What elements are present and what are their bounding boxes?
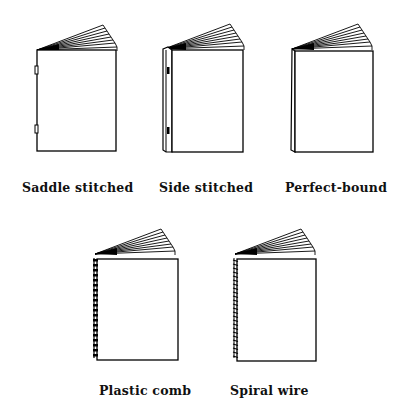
label-saddle-stitched: Saddle stitched xyxy=(22,180,133,195)
binding-diagram xyxy=(0,0,400,416)
label-spiral-wire: Spiral wire xyxy=(230,383,309,398)
saddle-stitched-book-icon xyxy=(35,25,117,151)
label-plastic-comb: Plastic comb xyxy=(99,383,191,398)
plastic-comb-book-icon xyxy=(93,229,178,360)
perfect-bound-book-icon xyxy=(291,24,373,152)
label-side-stitched: Side stitched xyxy=(159,180,253,195)
spiral-wire-book-icon xyxy=(233,229,316,361)
side-stitched-book-icon xyxy=(163,24,244,152)
label-perfect-bound: Perfect-bound xyxy=(285,180,387,195)
